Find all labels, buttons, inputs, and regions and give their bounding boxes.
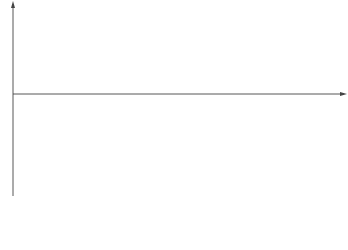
y-axis-arrow-icon xyxy=(11,1,15,8)
axes xyxy=(11,1,347,196)
three-phase-waveform-diagram xyxy=(0,0,348,250)
x-axis-arrow-icon xyxy=(340,92,347,96)
